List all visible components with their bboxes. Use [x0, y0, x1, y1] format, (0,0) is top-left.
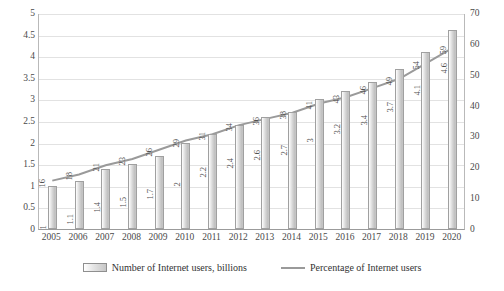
bar	[288, 112, 297, 229]
bar-value-label: 4.6	[439, 63, 448, 74]
bar-swatch-icon	[83, 263, 107, 272]
line-value-label: 29	[171, 139, 180, 148]
legend-item-bars: Number of Internet users, billions	[83, 262, 247, 273]
bar	[75, 181, 84, 229]
line-path	[52, 48, 452, 181]
y-axis-left-tick: 2	[30, 139, 35, 149]
line-swatch-icon	[281, 267, 305, 269]
line-value-label: 16	[38, 179, 47, 188]
x-axis-tick-2010: 2010	[171, 233, 198, 243]
y-axis-left-tick: 3.5	[23, 74, 35, 84]
x-axis-tick-2017: 2017	[358, 233, 385, 243]
bar	[208, 134, 217, 229]
y-axis-left-tick: 3	[30, 95, 35, 105]
bar	[101, 169, 110, 229]
bar	[315, 99, 324, 229]
x-axis-tick-2016: 2016	[332, 233, 359, 243]
y-axis-left-tick: 2.5	[23, 117, 35, 127]
bar	[395, 69, 404, 229]
bar-value-label: 1.1	[66, 214, 75, 225]
x-axis-tick-2019: 2019	[412, 233, 439, 243]
line-value-label: 46	[358, 86, 367, 95]
y-axis-right-tick: 70	[470, 9, 480, 19]
bar-value-label: 1.7	[146, 188, 155, 199]
y-axis-left-tick: 0.5	[23, 203, 35, 213]
x-axis-tick-2006: 2006	[65, 233, 92, 243]
x-axis-tick-2012: 2012	[225, 233, 252, 243]
y-axis-right-tick: 20	[470, 163, 480, 173]
x-axis-tick-2014: 2014	[278, 233, 305, 243]
y-axis-left-tick: 5	[30, 9, 35, 19]
legend-label-line: Percentage of Internet users	[310, 262, 421, 273]
plot-area: 11.11.41.51.722.22.42.62.733.23.43.74.14…	[38, 14, 465, 230]
bar	[235, 125, 244, 229]
line-value-label: 34	[225, 123, 234, 132]
x-axis-tick-2005: 2005	[38, 233, 65, 243]
bar-value-label: 4.1	[412, 85, 421, 96]
bar	[341, 91, 350, 229]
bar-value-label: 1	[39, 225, 48, 229]
bar-value-label: 1.4	[92, 201, 101, 212]
legend-label-bars: Number of Internet users, billions	[112, 262, 247, 273]
x-axis-tick-2011: 2011	[198, 233, 225, 243]
y-axis-left-tick: 1.5	[23, 160, 35, 170]
bar-value-label: 3	[306, 139, 315, 143]
bar-value-label: 2.6	[252, 150, 261, 161]
line-value-label: 31	[198, 132, 207, 141]
chart-container: 11.11.41.51.722.22.42.62.733.23.43.74.14…	[0, 0, 504, 291]
legend-item-line: Percentage of Internet users	[281, 262, 421, 273]
x-axis-tick-2015: 2015	[305, 233, 332, 243]
bar-value-label: 3.7	[386, 102, 395, 113]
bar	[48, 186, 57, 229]
y-axis-right-tick: 10	[470, 194, 480, 204]
y-axis-right-tick: 30	[470, 132, 480, 142]
x-axis-tick-2008: 2008	[118, 233, 145, 243]
bar	[128, 164, 137, 229]
bar-value-label: 2.2	[199, 167, 208, 178]
x-axis-tick-2018: 2018	[385, 233, 412, 243]
x-axis-tick-2007: 2007	[91, 233, 118, 243]
x-axis-tick-2009: 2009	[145, 233, 172, 243]
bar-value-label: 2.7	[279, 145, 288, 156]
line-value-label: 18	[65, 172, 74, 181]
y-axis-left-tick: 4.5	[23, 31, 35, 41]
y-axis-right-tick: 0	[470, 225, 475, 235]
y-axis-left-tick: 0	[30, 225, 35, 235]
y-axis-left-tick: 1	[30, 182, 35, 192]
chart-legend: Number of Internet users, billions Perce…	[0, 262, 504, 273]
bar-value-label: 2.4	[226, 158, 235, 169]
bar-value-label: 2	[172, 182, 181, 186]
line-value-label: 59	[438, 46, 447, 55]
line-value-label: 49	[385, 77, 394, 86]
bar-value-label: 3.4	[359, 115, 368, 126]
line-value-label: 38	[278, 111, 287, 120]
line-value-label: 36	[251, 117, 260, 126]
bar-value-label: 3.2	[332, 124, 341, 135]
bar-value-label: 1.5	[119, 197, 128, 208]
bar	[261, 117, 270, 229]
x-axis-tick-2013: 2013	[252, 233, 279, 243]
bar	[368, 82, 377, 229]
y-axis-right-tick: 50	[470, 71, 480, 81]
y-axis-left-tick: 4	[30, 52, 35, 62]
bar	[421, 52, 430, 229]
line-value-label: 54	[411, 61, 420, 70]
y-axis-right-tick: 60	[470, 40, 480, 50]
bar	[448, 30, 457, 229]
line-value-label: 26	[145, 148, 154, 157]
x-axis-tick-2020: 2020	[438, 233, 465, 243]
bar	[155, 156, 164, 229]
line-value-label: 23	[118, 157, 127, 166]
bar	[181, 143, 190, 229]
line-value-label: 43	[331, 95, 340, 104]
line-value-label: 41	[305, 101, 314, 110]
y-axis-right-tick: 40	[470, 102, 480, 112]
line-value-label: 21	[91, 163, 100, 172]
